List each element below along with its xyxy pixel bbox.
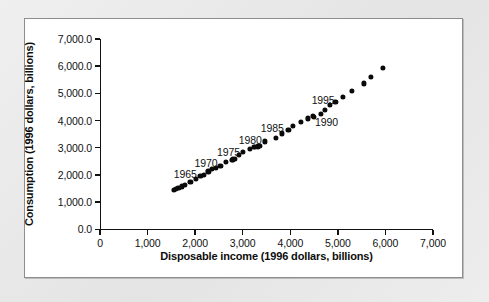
- y-axis-tick: [95, 147, 100, 148]
- y-axis-tick-label: 2,000.0: [58, 169, 95, 181]
- y-axis-tick-label: 0.0: [78, 223, 95, 235]
- scatter-point: [223, 160, 228, 165]
- year-annotation-1975: 1975: [217, 146, 240, 158]
- x-axis-tick-label: 5,000: [325, 237, 351, 249]
- x-axis-tick-label: 1,000: [135, 237, 161, 249]
- x-axis-tick-label: 6,000: [373, 237, 399, 249]
- x-axis-tick: [337, 230, 338, 235]
- scatter-point: [368, 74, 373, 79]
- y-axis-tick-label: 5,000.0: [58, 87, 95, 99]
- y-axis-tick: [95, 38, 100, 39]
- plot-surface: 0.01,000.02,000.03,000.04,000.05,000.06,…: [25, 19, 464, 279]
- scatter-point: [262, 139, 267, 144]
- y-axis-tick: [95, 120, 100, 121]
- scatter-point: [290, 124, 295, 129]
- x-axis-tick: [147, 230, 148, 235]
- y-axis-tick-label: 1,000.0: [58, 196, 95, 208]
- x-axis-tick-label: 0: [97, 237, 103, 249]
- y-axis-line: [100, 39, 101, 230]
- y-axis-tick-label: 3,000.0: [58, 142, 95, 154]
- x-axis-tick: [385, 230, 386, 235]
- scatter-point: [349, 89, 354, 94]
- x-axis-tick: [290, 230, 291, 235]
- scatter-point: [218, 164, 223, 169]
- scatter-point: [241, 149, 246, 154]
- x-axis-line: [100, 229, 433, 230]
- scatter-point: [299, 119, 304, 124]
- year-annotation-1985: 1985: [261, 122, 284, 134]
- year-annotation-1970: 1970: [195, 157, 218, 169]
- x-axis-tick-label: 7,000: [420, 237, 446, 249]
- y-axis-tick: [95, 174, 100, 175]
- figure-root: 0.01,000.02,000.03,000.04,000.05,000.06,…: [0, 0, 489, 302]
- x-axis-tick-label: 3,000: [230, 237, 256, 249]
- chart-frame: 0.01,000.02,000.03,000.04,000.05,000.06,…: [24, 18, 463, 278]
- y-axis-tick-label: 4,000.0: [58, 115, 95, 127]
- year-annotation-1990: 1990: [315, 116, 338, 128]
- y-axis-tick-label: 6,000.0: [58, 60, 95, 72]
- year-annotation-1980: 1980: [239, 134, 262, 146]
- scatter-point: [380, 65, 385, 70]
- x-axis-tick: [99, 230, 100, 235]
- x-axis-tick: [194, 230, 195, 235]
- x-axis-tick-label: 4,000: [277, 237, 303, 249]
- y-axis-tick: [95, 93, 100, 94]
- scatter-point: [273, 135, 278, 140]
- year-annotation-1965: 1965: [174, 168, 197, 180]
- x-axis-tick: [242, 230, 243, 235]
- x-axis-tick: [432, 230, 433, 235]
- x-axis-title: Disposable income (1996 dollars, billion…: [100, 250, 433, 262]
- scatter-point: [188, 179, 193, 184]
- scatter-point: [182, 182, 187, 187]
- x-axis-tick-label: 2,000: [182, 237, 208, 249]
- scatter-point: [340, 94, 345, 99]
- year-annotation-1995: 1995: [312, 94, 335, 106]
- y-axis-tick-label: 7,000.0: [58, 33, 95, 45]
- scatter-point: [322, 107, 327, 112]
- y-axis-tick: [95, 65, 100, 66]
- y-axis-title: Consumption (1996 dollars, billions): [23, 42, 35, 226]
- y-axis-tick: [95, 201, 100, 202]
- scatter-point: [361, 81, 366, 86]
